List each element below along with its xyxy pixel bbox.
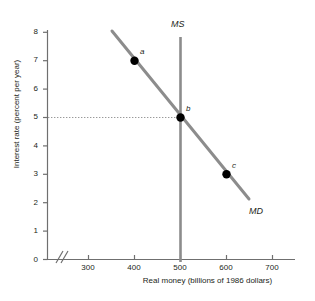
y-axis-ticks [43,32,48,259]
data-point-b [176,113,184,121]
y-tick-label-2: 2 [24,199,38,207]
x-tick-label-300: 300 [73,264,103,272]
y-tick-label-3: 3 [24,170,38,178]
x-axis-title: Real money (billions of 1986 dollars) [110,277,305,285]
curve-label-ms: MS [171,20,185,29]
point-label-a: a [140,48,144,56]
y-tick-label-4: 4 [24,142,38,150]
x-tick-label-600: 600 [211,264,241,272]
x-tick-label-400: 400 [119,264,149,272]
data-point-a [130,57,138,65]
x-tick-label-700: 700 [257,264,287,272]
money-market-chart: 8 7 6 5 4 3 2 1 0 300 400 500 600 700 In… [0,0,315,301]
curve-label-md: MD [249,207,263,216]
y-tick-label-1: 1 [24,227,38,235]
data-point-c [222,170,230,178]
chart-plot-area [0,0,315,301]
y-tick-label-7: 7 [24,56,38,64]
point-label-c: c [232,162,236,170]
y-tick-label-5: 5 [24,113,38,121]
y-axis-title: Interest rate (percent per year) [13,39,21,189]
y-tick-label-6: 6 [24,85,38,93]
point-label-b: b [186,105,190,113]
axis-break-icon [56,251,68,263]
x-tick-label-500: 500 [165,264,195,272]
y-tick-label-8: 8 [24,28,38,36]
y-tick-label-0: 0 [24,256,38,264]
